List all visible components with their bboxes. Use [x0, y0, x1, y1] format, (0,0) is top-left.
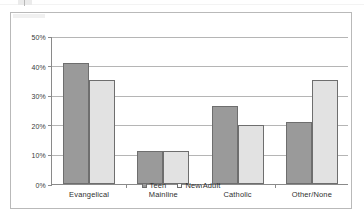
bar-group: Other/None	[275, 37, 349, 184]
scan-artifact-tick	[24, 0, 25, 6]
y-axis-label: 10%	[31, 152, 46, 159]
scan-artifact	[18, 0, 32, 5]
x-axis-label: Other/None	[275, 190, 349, 199]
bar-teen-mainline	[137, 151, 163, 184]
legend-swatch-icon	[142, 183, 147, 188]
legend-item-teen: Teen	[142, 181, 167, 190]
bar-teen-evangelical	[63, 63, 89, 184]
legend-swatch-icon	[177, 183, 182, 188]
y-axis-label: 20%	[31, 122, 46, 129]
bar-new-adult-other-none	[312, 80, 338, 184]
bar-group: Evangelical	[52, 37, 126, 184]
legend-label: Teen	[150, 181, 167, 190]
plot-area: 0%10%20%30%40%50%EvangelicalMainlineCath…	[51, 37, 348, 185]
legend-item-new-adult: New Adult	[177, 181, 220, 190]
x-axis-label: Mainline	[126, 190, 200, 199]
y-axis-label: 50%	[31, 34, 46, 41]
bar-group: Mainline	[126, 37, 200, 184]
scan-smudge	[13, 14, 45, 18]
bar-teen-catholic	[212, 106, 238, 184]
legend-label: New Adult	[185, 181, 220, 190]
x-axis-label: Catholic	[201, 190, 275, 199]
chart-frame: 0%10%20%30%40%50%EvangelicalMainlineCath…	[10, 12, 352, 209]
bar-new-adult-evangelical	[89, 80, 115, 184]
y-axis-label: 40%	[31, 63, 46, 70]
x-axis-label: Evangelical	[52, 190, 126, 199]
scan-artifact-line	[0, 4, 364, 5]
bar-group: Catholic	[201, 37, 275, 184]
bar-new-adult-mainline	[163, 151, 189, 184]
y-axis-label: 30%	[31, 93, 46, 100]
bar-teen-other-none	[286, 122, 312, 184]
chart-legend: TeenNew Adult	[11, 181, 351, 190]
bar-new-adult-catholic	[238, 125, 264, 184]
